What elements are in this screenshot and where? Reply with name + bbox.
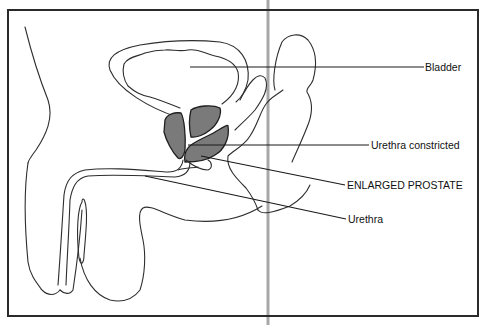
bladder-inner-wall [123, 50, 238, 108]
anatomy-diagram: Bladder Urethra constricted ENLARGED PRO… [0, 0, 482, 325]
corpus-loop [78, 199, 87, 263]
scrotum [80, 206, 262, 301]
label-enlarged-prostate: ENLARGED PROSTATE [347, 179, 463, 191]
penis-outer [25, 163, 60, 295]
body-back-contour [25, 27, 50, 163]
urethra-lower [66, 162, 190, 285]
rectum-outline [274, 35, 316, 162]
label-urethra: Urethra [348, 213, 383, 225]
label-bladder: Bladder [425, 61, 462, 73]
leader-line-urethra [145, 176, 346, 219]
perineum-contour [258, 185, 310, 213]
bladder-outer-wall [109, 41, 248, 117]
label-urethra-constricted: Urethra constricted [371, 139, 460, 151]
seminal-vesicle [235, 76, 267, 130]
leader-line-enlarged-prostate [201, 156, 345, 185]
rectum-inner [228, 90, 283, 210]
prostate-lobe-left [164, 113, 185, 159]
